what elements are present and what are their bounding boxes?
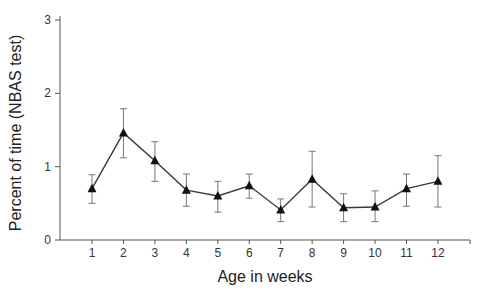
error-bars [89, 109, 442, 222]
y-tick-label: 3 [44, 13, 51, 27]
x-axis-title: Age in weeks [217, 268, 312, 285]
x-tick-label: 6 [246, 246, 253, 260]
data-line [92, 133, 438, 210]
y-axis: 0123 [44, 13, 60, 247]
x-tick-label: 12 [431, 246, 445, 260]
x-tick-label: 8 [309, 246, 316, 260]
y-tick-label: 1 [44, 160, 51, 174]
triangle-marker-icon [88, 184, 97, 193]
x-tick-label: 9 [340, 246, 347, 260]
x-tick-label: 2 [120, 246, 127, 260]
y-axis-title: Percent of time (NBAS test) [7, 35, 24, 232]
x-axis: 123456789101112 [60, 240, 470, 260]
line-chart: 0123 123456789101112 Percent of time (NB… [0, 0, 486, 300]
x-tick-label: 1 [89, 246, 96, 260]
x-tick-label: 5 [214, 246, 221, 260]
triangle-marker-icon [308, 174, 317, 183]
x-tick-label: 4 [183, 246, 190, 260]
triangle-marker-icon [371, 202, 380, 211]
y-tick-label: 2 [44, 86, 51, 100]
triangle-marker-icon [245, 181, 254, 190]
x-tick-label: 7 [277, 246, 284, 260]
triangle-marker-icon [119, 128, 128, 137]
x-tick-label: 10 [368, 246, 382, 260]
x-tick-label: 3 [152, 246, 159, 260]
data-markers [88, 128, 443, 214]
x-tick-label: 11 [400, 246, 413, 260]
y-tick-label: 0 [44, 233, 51, 247]
series-line [92, 133, 438, 210]
triangle-marker-icon [433, 176, 442, 185]
